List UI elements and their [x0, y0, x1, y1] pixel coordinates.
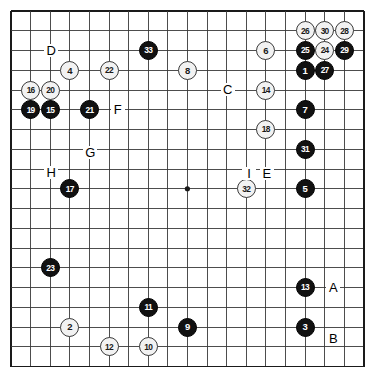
stone-white-30[interactable]: 30 — [315, 21, 334, 40]
stone-white-22[interactable]: 22 — [100, 61, 119, 80]
stone-white-18[interactable]: 18 — [256, 120, 275, 139]
stone-black-25[interactable]: 25 — [296, 41, 315, 60]
stone-black-1[interactable]: 1 — [296, 61, 315, 80]
stone-black-21[interactable]: 21 — [80, 100, 99, 119]
stone-white-8[interactable]: 8 — [178, 61, 197, 80]
board-marker-I: I — [242, 167, 256, 180]
stone-black-15[interactable]: 15 — [41, 100, 60, 119]
stone-white-2[interactable]: 2 — [60, 318, 79, 337]
stone-white-16[interactable]: 16 — [21, 81, 40, 100]
stone-white-4[interactable]: 4 — [60, 61, 79, 80]
stone-black-31[interactable]: 31 — [296, 140, 315, 159]
stone-white-14[interactable]: 14 — [256, 81, 275, 100]
stone-black-33[interactable]: 33 — [139, 41, 158, 60]
stone-black-7[interactable]: 7 — [296, 100, 315, 119]
board-marker-G: G — [83, 146, 97, 159]
stone-black-11[interactable]: 11 — [139, 298, 158, 317]
board-marker-B: B — [326, 332, 340, 345]
stone-black-27[interactable]: 27 — [315, 61, 334, 80]
stone-white-24[interactable]: 24 — [315, 41, 334, 60]
stone-black-5[interactable]: 5 — [296, 179, 315, 198]
board-marker-F: F — [111, 103, 125, 116]
board-marker-H: H — [44, 166, 58, 179]
go-board-diagram: 1234567891011121314151617181920212223242… — [0, 0, 376, 385]
stone-white-28[interactable]: 28 — [335, 21, 354, 40]
stone-black-13[interactable]: 13 — [296, 278, 315, 297]
stone-black-23[interactable]: 23 — [41, 258, 60, 277]
stone-black-9[interactable]: 9 — [178, 318, 197, 337]
stone-black-17[interactable]: 17 — [60, 179, 79, 198]
board-marker-E: E — [260, 167, 274, 180]
board-marker-C: C — [221, 83, 235, 96]
stone-black-3[interactable]: 3 — [296, 318, 315, 337]
stone-black-19[interactable]: 19 — [21, 100, 40, 119]
stone-white-10[interactable]: 10 — [139, 337, 158, 356]
stone-white-20[interactable]: 20 — [41, 81, 60, 100]
board-marker-D: D — [44, 44, 58, 57]
stone-white-32[interactable]: 32 — [237, 179, 256, 198]
stone-layer: 1234567891011121314151617181920212223242… — [0, 0, 376, 385]
stone-white-12[interactable]: 12 — [100, 337, 119, 356]
board-marker-A: A — [326, 281, 340, 294]
stone-white-6[interactable]: 6 — [256, 41, 275, 60]
stone-black-29[interactable]: 29 — [335, 41, 354, 60]
stone-white-26[interactable]: 26 — [296, 21, 315, 40]
